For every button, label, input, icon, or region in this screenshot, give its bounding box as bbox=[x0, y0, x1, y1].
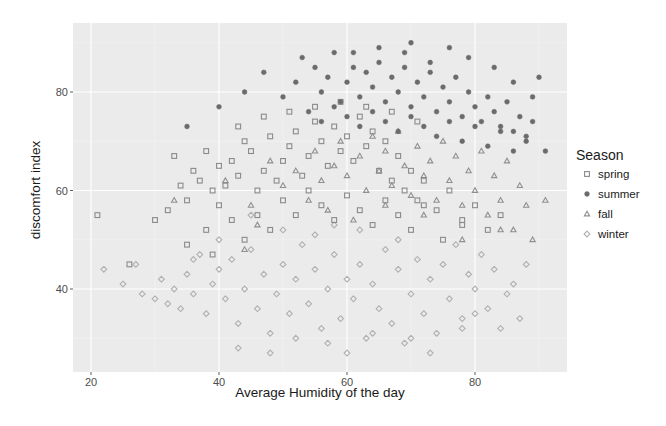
legend-item-winter: winter bbox=[584, 228, 629, 240]
data-point-summer bbox=[351, 50, 356, 55]
data-point-summer bbox=[396, 129, 401, 134]
data-point-summer bbox=[306, 109, 311, 114]
data-point-summer bbox=[511, 129, 516, 134]
y-tick-label: 80 bbox=[56, 86, 68, 98]
data-point-summer bbox=[492, 65, 497, 70]
data-point-summer bbox=[383, 119, 388, 124]
data-point-summer bbox=[383, 99, 388, 104]
data-point-summer bbox=[409, 40, 414, 45]
data-point-summer bbox=[261, 70, 266, 75]
data-point-summer bbox=[281, 95, 286, 100]
data-point-summer bbox=[389, 75, 394, 80]
data-point-summer bbox=[300, 55, 305, 60]
data-point-summer bbox=[370, 85, 375, 90]
data-point-summer bbox=[345, 114, 350, 119]
data-point-summer bbox=[332, 50, 337, 55]
data-point-summer bbox=[396, 90, 401, 95]
data-point-summer bbox=[377, 60, 382, 65]
data-point-summer bbox=[466, 55, 471, 60]
data-point-summer bbox=[338, 99, 343, 104]
data-point-summer bbox=[492, 109, 497, 114]
y-tick-label: 60 bbox=[56, 185, 68, 197]
legend-key-summer-icon bbox=[585, 192, 590, 197]
legend: Season springsummerfallwinter bbox=[576, 147, 640, 240]
data-point-summer bbox=[319, 90, 324, 95]
legend-label: summer bbox=[598, 188, 640, 200]
data-point-summer bbox=[447, 45, 452, 50]
legend-key-fall-icon bbox=[584, 211, 589, 216]
legend-label: winter bbox=[597, 228, 629, 240]
data-point-summer bbox=[409, 114, 414, 119]
data-point-summer bbox=[441, 85, 446, 90]
data-point-summer bbox=[421, 95, 426, 100]
data-point-summer bbox=[511, 80, 516, 85]
data-point-summer bbox=[357, 124, 362, 129]
data-point-summer bbox=[485, 144, 490, 149]
x-tick-label: 40 bbox=[213, 376, 225, 388]
legend-key-winter-icon bbox=[584, 231, 590, 237]
data-point-summer bbox=[217, 104, 222, 109]
data-point-summer bbox=[242, 90, 247, 95]
data-point-summer bbox=[511, 149, 516, 154]
data-point-summer bbox=[415, 80, 420, 85]
data-point-summer bbox=[293, 80, 298, 85]
data-point-summer bbox=[485, 95, 490, 100]
data-point-summer bbox=[402, 50, 407, 55]
legend-label: fall bbox=[598, 208, 613, 220]
data-point-summer bbox=[498, 129, 503, 134]
data-point-summer bbox=[524, 139, 529, 144]
data-point-summer bbox=[428, 70, 433, 75]
x-tick-label: 80 bbox=[469, 376, 481, 388]
y-tick-label: 40 bbox=[56, 283, 68, 295]
data-point-summer bbox=[524, 134, 529, 139]
scatter-chart: 20406080 406080 Average Humidity of the … bbox=[0, 0, 666, 426]
data-point-summer bbox=[351, 65, 356, 70]
x-axis-title: Average Humidity of the day bbox=[235, 385, 405, 400]
data-point-summer bbox=[434, 109, 439, 114]
data-point-summer bbox=[473, 104, 478, 109]
legend-title: Season bbox=[576, 147, 623, 163]
data-point-summer bbox=[364, 70, 369, 75]
data-point-summer bbox=[377, 45, 382, 50]
data-point-summer bbox=[543, 149, 548, 154]
data-point-summer bbox=[517, 114, 522, 119]
data-point-summer bbox=[428, 60, 433, 65]
data-point-summer bbox=[370, 109, 375, 114]
data-point-summer bbox=[319, 119, 324, 124]
legend-label: spring bbox=[598, 168, 629, 180]
data-point-summer bbox=[447, 119, 452, 124]
data-point-summer bbox=[325, 75, 330, 80]
data-point-summer bbox=[473, 124, 478, 129]
data-point-summer bbox=[402, 65, 407, 70]
data-point-summer bbox=[313, 65, 318, 70]
data-point-summer bbox=[530, 119, 535, 124]
data-point-summer bbox=[466, 90, 471, 95]
legend-item-spring: spring bbox=[585, 168, 630, 180]
data-point-summer bbox=[421, 124, 426, 129]
data-point-summer bbox=[498, 124, 503, 129]
data-point-summer bbox=[357, 95, 362, 100]
legend-item-fall: fall bbox=[584, 208, 612, 220]
data-point-summer bbox=[453, 75, 458, 80]
data-point-summer bbox=[434, 134, 439, 139]
data-point-summer bbox=[185, 124, 190, 129]
legend-item-summer: summer bbox=[585, 188, 640, 200]
data-point-summer bbox=[447, 99, 452, 104]
data-point-summer bbox=[530, 95, 535, 100]
data-point-summer bbox=[332, 104, 337, 109]
y-axis-title: discomfort index bbox=[28, 141, 43, 240]
legend-key-spring-icon bbox=[585, 172, 590, 177]
data-point-summer bbox=[460, 139, 465, 144]
data-point-summer bbox=[460, 114, 465, 119]
data-point-summer bbox=[409, 104, 414, 109]
data-point-summer bbox=[505, 99, 510, 104]
data-point-summer bbox=[537, 75, 542, 80]
y-axis-ticks: 406080 bbox=[56, 86, 73, 295]
data-point-summer bbox=[479, 119, 484, 124]
plot-panel bbox=[73, 23, 567, 372]
data-point-summer bbox=[345, 80, 350, 85]
x-tick-label: 20 bbox=[85, 376, 97, 388]
